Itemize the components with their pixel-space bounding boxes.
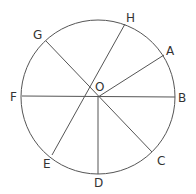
point-label-g: G [33,28,42,42]
center-label-o: O [95,80,104,94]
point-label-c: C [157,154,165,168]
circle-diagram: ABCDEFGH O [0,0,196,194]
segment-oa [98,55,164,97]
point-label-a: A [166,44,175,58]
segment-he [52,24,125,155]
point-label-d: D [94,176,103,190]
point-label-b: B [178,91,186,105]
point-label-h: H [126,11,135,25]
segments [22,24,175,174]
point-label-e: E [43,157,51,171]
point-label-f: F [10,90,17,104]
